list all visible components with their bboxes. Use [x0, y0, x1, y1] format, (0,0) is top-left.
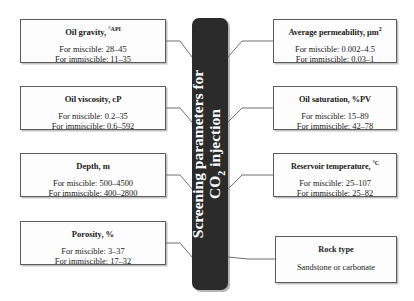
miscible-value: For miscible: 0.002–4.5 [295, 45, 375, 56]
immiscible-value: For immiscible: 400–2800 [49, 189, 138, 197]
immiscible-value: For immiscible: 42–78 [297, 122, 373, 130]
parameter-title: Reservoir temperature, °C [291, 158, 379, 172]
unit-superscript: °API [108, 26, 121, 32]
parameter-title: Oil gravity, °API [65, 24, 121, 38]
miscible-value: For miscible: 0.2–35 [52, 112, 135, 123]
parameter-box-average-permeability: Average permeability, µm2 For miscible: … [273, 19, 397, 63]
parameter-title: Oil viscosity, cP [65, 91, 122, 105]
parameter-box-reservoir-temperature: Reservoir temperature, °C For miscible: … [273, 153, 397, 197]
parameter-title: Porosity, % [72, 226, 114, 240]
parameter-values: For miscible: 3–37 For immiscible: 17–32 [55, 247, 131, 265]
parameter-values: For miscible: 0.002–4.5 For immiscible: … [295, 45, 375, 63]
miscible-value: For miscible: 15–89 [297, 112, 373, 123]
miscible-value: For miscible: 3–37 [55, 247, 131, 258]
parameter-values: For miscible: 25–107 For immiscible: 25–… [297, 179, 373, 197]
connector-right-3 [228, 175, 273, 189]
parameter-title: Depth, m [76, 158, 110, 172]
banner-line-1: Screening parameters for [192, 18, 207, 290]
parameter-title: Rock type [318, 241, 353, 255]
immiscible-value: For immiscible: 25–82 [297, 189, 373, 197]
parameter-title: Oil saturation, %PV [299, 91, 371, 105]
immiscible-value: For immiscible: 0.03–1 [295, 55, 375, 63]
parameter-values: For miscible: 28–45 For immiscible: 11–3… [55, 45, 131, 63]
unit-superscript: 2 [379, 26, 382, 32]
parameter-box-oil-viscosity: Oil viscosity, cP For miscible: 0.2–35 F… [20, 86, 166, 130]
immiscible-value: For immiscible: 11–35 [55, 55, 131, 63]
immiscible-value: For immiscible: 0.6–592 [52, 122, 135, 130]
connector-left-1 [166, 41, 192, 57]
miscible-value: For miscible: 25–107 [297, 179, 373, 190]
parameter-values: For miscible: 0.2–35 For immiscible: 0.6… [52, 112, 135, 130]
parameter-title: Average permeability, µm2 [288, 24, 381, 38]
parameter-values: Sandstone or carbonate [297, 263, 375, 274]
connector-left-3 [166, 175, 192, 189]
co2-subscript: 2 [215, 171, 226, 176]
immiscible-value: For immiscible: 17–32 [55, 257, 131, 265]
connector-left-4 [166, 243, 192, 257]
parameter-box-porosity: Porosity, % For miscible: 3–37 For immis… [20, 221, 166, 265]
parameter-values: For miscible: 500–4500 For immiscible: 4… [49, 179, 138, 197]
miscible-value: For miscible: 28–45 [55, 45, 131, 56]
connector-right-4 [228, 257, 275, 259]
parameter-box-oil-saturation: Oil saturation, %PV For miscible: 15–89 … [273, 86, 397, 130]
connector-right-1 [228, 41, 273, 57]
central-banner-text: Screening parameters for CO2 injection [192, 18, 228, 290]
parameter-box-rock-type: Rock type Sandstone or carbonate [275, 236, 397, 283]
miscible-value: For miscible: 500–4500 [49, 179, 138, 190]
parameter-box-depth: Depth, m For miscible: 500–4500 For immi… [20, 153, 166, 197]
parameter-box-oil-gravity: Oil gravity, °API For miscible: 28–45 Fo… [20, 19, 166, 63]
screening-parameters-diagram: Oil gravity, °API For miscible: 28–45 Fo… [0, 0, 414, 301]
banner-line-2: CO2 injection [207, 18, 228, 290]
connector-right-2 [228, 108, 273, 122]
rock-type-value: Sandstone or carbonate [297, 263, 375, 274]
parameter-values: For miscible: 15–89 For immiscible: 42–7… [297, 112, 373, 130]
unit-superscript: °C [372, 160, 379, 166]
connector-left-2 [166, 108, 192, 122]
central-banner: Screening parameters for CO2 injection [192, 18, 228, 290]
